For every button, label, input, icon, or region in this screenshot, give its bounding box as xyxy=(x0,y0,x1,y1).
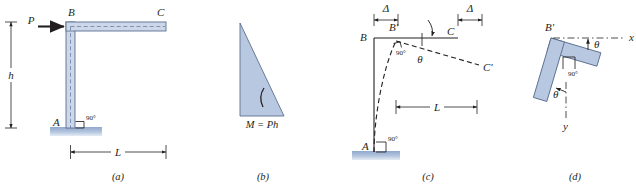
label-axis-x-d: x xyxy=(628,31,634,43)
label-angle-theta-y-d: θ xyxy=(553,88,559,100)
label-point-b-prime-c: B' xyxy=(389,21,399,33)
label-span-l-a: L xyxy=(114,146,121,158)
figure-canvas: P B C A 90° h L (a) xyxy=(0,0,636,187)
label-delta-right: Δ xyxy=(466,2,473,14)
label-span-l-c: L xyxy=(433,101,440,113)
label-moment-equation: M = Ph xyxy=(245,119,279,130)
label-rotation-theta-c: θ xyxy=(417,53,423,65)
panel-c: 90° A 90° θ B B' C C' Δ Δ xyxy=(352,2,493,183)
label-angle-90-base-c: 90° xyxy=(388,135,398,143)
label-delta-left: Δ xyxy=(382,2,389,14)
rotated-member-group-vertical xyxy=(533,38,564,101)
label-point-a-c: A xyxy=(361,140,369,152)
label-angle-90-d: 90° xyxy=(568,70,578,78)
label-point-c-c: C xyxy=(447,25,455,37)
label-angle-theta-x-d: θ xyxy=(594,38,600,50)
panel-a: P B C A 90° h L (a) xyxy=(5,6,166,183)
label-point-b-prime-d: B' xyxy=(545,21,555,33)
caption-panel-d: (d) xyxy=(569,171,582,183)
label-point-c-a: C xyxy=(157,6,165,18)
label-point-c-prime-c: C' xyxy=(483,61,493,73)
panel-d: x θ B' 90° y θ (d) xyxy=(533,21,634,183)
label-angle-90-a: 90° xyxy=(86,114,96,122)
label-angle-90-corner-c: 90° xyxy=(396,49,406,57)
label-point-a-a: A xyxy=(52,116,60,128)
label-force-p: P xyxy=(27,14,35,26)
right-angle-marker-a-c xyxy=(376,142,386,152)
moment-diagram-triangle xyxy=(240,23,284,116)
caption-panel-b: (b) xyxy=(257,171,270,183)
figure-four-panel-cantilever: P B C A 90° h L (a) xyxy=(0,0,636,187)
deflected-member-bc-c xyxy=(396,41,479,65)
panel-b: M = Ph (b) xyxy=(240,23,284,183)
label-axis-y-d: y xyxy=(562,120,568,132)
rotation-arrow-c xyxy=(428,20,433,36)
caption-panel-a: (a) xyxy=(112,171,125,183)
caption-panel-c: (c) xyxy=(422,171,434,183)
label-point-b-a: B xyxy=(68,6,75,18)
label-point-b-c: B xyxy=(360,31,367,43)
label-height-h: h xyxy=(8,69,14,81)
